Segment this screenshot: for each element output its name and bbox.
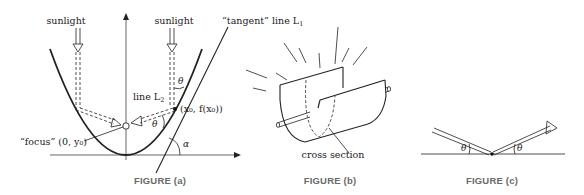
sun-rays-icon [246, 27, 367, 91]
figure-c-caption: FIGURE (c) [466, 175, 518, 186]
cross-section-curve [306, 80, 335, 137]
focus-label: “focus” (0, y₀) [20, 136, 87, 147]
sunlight-label-right: sunlight [154, 15, 193, 26]
figure-a: sunlight sunlight “tangent” line L1 line… [20, 13, 303, 186]
theta-label-lower: θ [152, 119, 158, 129]
focus-point [123, 123, 129, 129]
figure-c: θ θ FIGURE (c) [421, 121, 565, 186]
trough-bottom-edge [305, 124, 368, 142]
figure-b: cross section FIGURE (b) [246, 27, 391, 186]
y-axis-arrow-icon [123, 13, 129, 20]
alpha-arc [169, 138, 180, 155]
sunlight-arrow-right-icon [131, 28, 177, 126]
tangent-line-label: “tangent” line L1 [222, 15, 303, 28]
theta-arc-right [514, 144, 515, 154]
figure-b-caption: FIGURE (b) [304, 175, 357, 186]
reflection-point [490, 152, 494, 156]
trough-front-edge [368, 80, 386, 124]
tangent-line-l1 [156, 27, 228, 173]
tangent-point [173, 107, 177, 111]
diagram-canvas: sunlight sunlight “tangent” line L1 line… [0, 0, 584, 195]
sunlight-arrow-left-icon [73, 28, 121, 127]
theta-arc-lower [162, 115, 164, 128]
trough-back-edge [280, 85, 305, 142]
figure-a-caption: FIGURE (a) [134, 175, 186, 186]
point-label: (x₀, f(x₀)) [180, 103, 223, 114]
focus-pointer-line [84, 127, 123, 141]
alpha-label: α [183, 139, 189, 149]
theta-arc-upper [174, 87, 184, 89]
theta-label-left: θ [461, 143, 467, 153]
x-axis-arrow-icon [234, 152, 241, 158]
sunlight-label-left: sunlight [46, 15, 85, 26]
theta-label-right: θ [517, 143, 523, 153]
cross-section-label: cross section [302, 149, 365, 160]
line-l2-label: line L2 [133, 91, 164, 104]
trough-front-rim-edge [318, 100, 320, 108]
theta-label-upper: θ [178, 76, 184, 86]
trough-back-rim [280, 67, 343, 85]
trough-front-rim [320, 80, 385, 100]
theta-arc-left [469, 144, 470, 154]
